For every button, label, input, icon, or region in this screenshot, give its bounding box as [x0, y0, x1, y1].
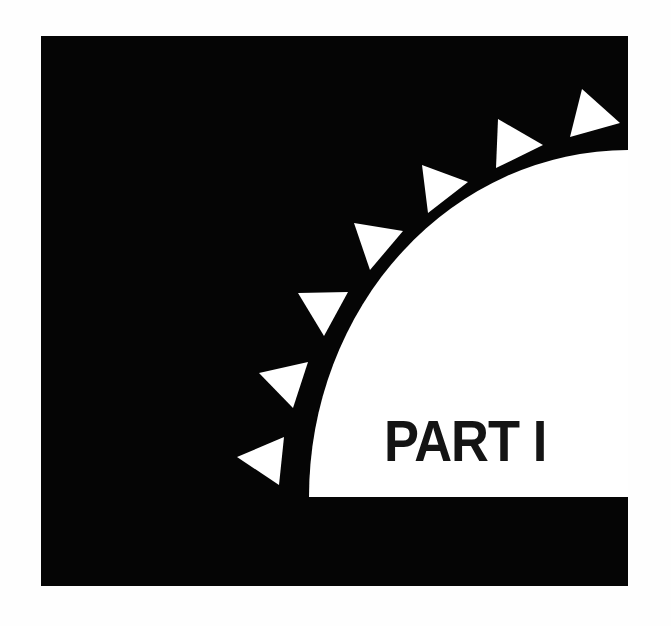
- part-title: PART I: [384, 410, 550, 472]
- part-title-page: PART I: [0, 0, 671, 626]
- decorative-graphic: [0, 0, 671, 626]
